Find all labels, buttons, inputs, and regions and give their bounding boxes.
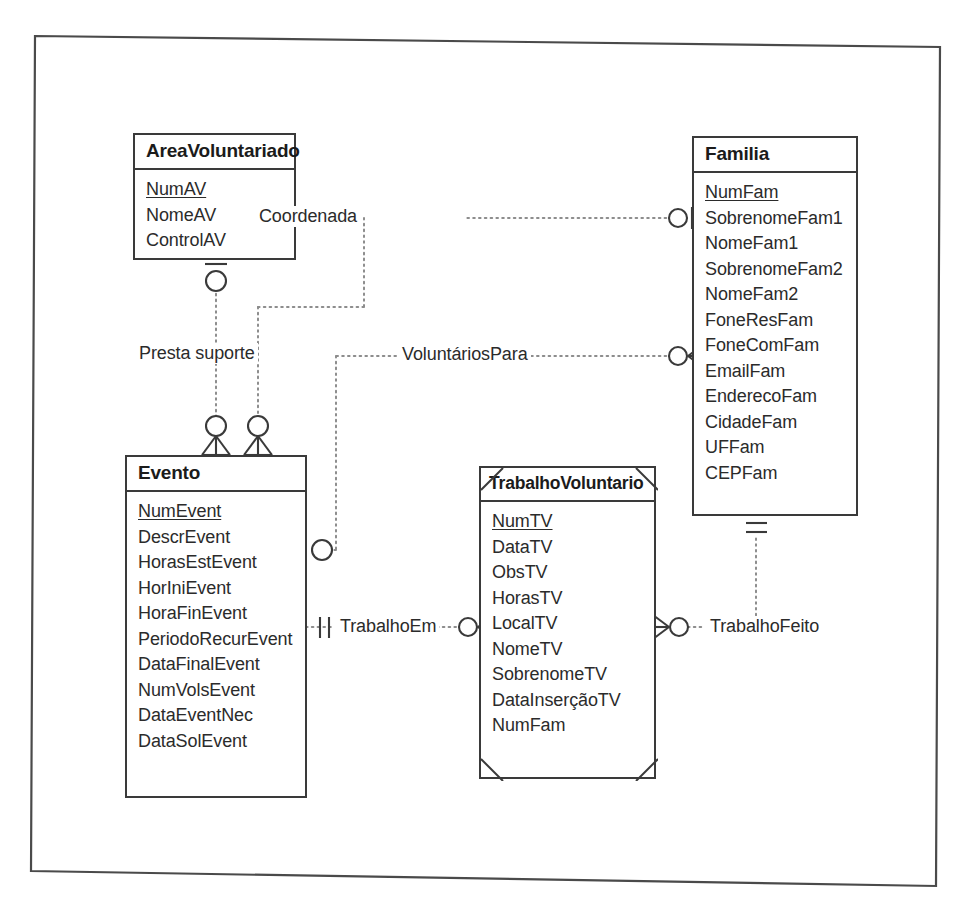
attribute: DataEventNec <box>138 703 305 729</box>
cardinality-voluntariospara-evento <box>305 539 332 561</box>
attribute: ObsTV <box>492 560 654 586</box>
attribute: ControlAV <box>146 228 294 254</box>
entity-title: AreaVoluntariado <box>135 135 294 168</box>
attribute: CEPFam <box>705 461 856 487</box>
attribute: CidadeFam <box>705 410 856 436</box>
attribute-list: NumEvent DescrEvent HorasEstEvent HorIni… <box>127 492 305 764</box>
attribute-primary-key: NumEvent <box>138 499 305 525</box>
entity-trabalhovoluntario[interactable]: TrabalhoVoluntario NumTV DataTV ObsTV Ho… <box>479 466 656 779</box>
attribute: NumFam <box>492 713 654 739</box>
cardinality-trabalhoem-evento <box>320 617 329 638</box>
entity-evento[interactable]: Evento NumEvent DescrEvent HorasEstEvent… <box>125 455 307 798</box>
attribute: NomeFam2 <box>705 282 856 308</box>
relationship-label-voluntariospara: VoluntáriosPara <box>399 344 531 365</box>
relationship-line-trabalhofeito <box>688 536 756 627</box>
attribute-list: NumTV DataTV ObsTV HorasTV LocalTV NomeT… <box>481 502 654 749</box>
attribute: HorasEstEvent <box>138 550 305 576</box>
relationship-label-trabalhoem: TrabalhoEm <box>337 616 439 637</box>
cardinality-coordenada-evento <box>244 416 272 455</box>
er-diagram-canvas: .dot { stroke:#8d8d8d; stroke-width:2; s… <box>0 0 972 922</box>
attribute: FoneComFam <box>705 333 856 359</box>
attribute: HorasTV <box>492 586 654 612</box>
entity-title: Evento <box>127 457 305 490</box>
relationship-label-trabalhofeito: TrabalhoFeito <box>707 616 822 637</box>
attribute-list: NumFam SobrenomeFam1 NomeFam1 SobrenomeF… <box>694 173 856 496</box>
entity-familia[interactable]: Familia NumFam SobrenomeFam1 NomeFam1 So… <box>692 136 858 516</box>
attribute-primary-key: NumTV <box>492 509 654 535</box>
attribute: SobrenomeTV <box>492 662 654 688</box>
attribute-primary-key: NumFam <box>705 180 856 206</box>
entity-areavoluntariado[interactable]: AreaVoluntariado NumAV NomeAV ControlAV <box>133 133 296 260</box>
attribute: NomeFam1 <box>705 231 856 257</box>
relationship-label-coordenada: Coordenada <box>256 206 360 227</box>
attribute: HoraFinEvent <box>138 601 305 627</box>
cardinality-coordenada-familia <box>669 207 692 229</box>
attribute: DataInserçãoTV <box>492 688 654 714</box>
attribute: LocalTV <box>492 611 654 637</box>
entity-title: TrabalhoVoluntario <box>481 468 654 500</box>
attribute: DataSolEvent <box>138 729 305 755</box>
attribute: SobrenomeFam1 <box>705 206 856 232</box>
attribute: DescrEvent <box>138 525 305 551</box>
cardinality-trabalhofeito-familia <box>746 523 767 532</box>
attribute: FoneResFam <box>705 308 856 334</box>
attribute: EnderecoFam <box>705 384 856 410</box>
attribute: NomeTV <box>492 637 654 663</box>
attribute: HorIniEvent <box>138 576 305 602</box>
attribute: SobrenomeFam2 <box>705 257 856 283</box>
attribute: NumVolsEvent <box>138 678 305 704</box>
attribute: PeriodoRecurEvent <box>138 627 305 653</box>
attribute-primary-key: NumAV <box>146 177 294 203</box>
entity-title: Familia <box>694 138 856 171</box>
relationship-line-coordenada <box>258 218 672 418</box>
attribute: UFFam <box>705 435 856 461</box>
attribute: DataFinalEvent <box>138 652 305 678</box>
cardinality-trabalhofeito-trabalhovoluntario <box>653 615 688 639</box>
cardinality-prestasuporte-evento <box>202 416 230 455</box>
attribute: EmailFam <box>705 359 856 385</box>
attribute: DataTV <box>492 535 654 561</box>
relationship-label-presta-suporte: Presta suporte <box>136 343 258 364</box>
cardinality-prestasuporte-areavoluntariado <box>205 264 227 291</box>
